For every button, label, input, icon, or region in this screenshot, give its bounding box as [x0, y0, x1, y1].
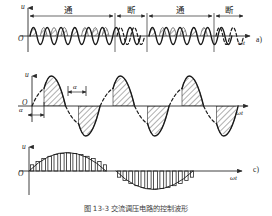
pulse-pos-6	[60, 153, 64, 171]
panel-b-hatch-negative	[79, 106, 239, 136]
panel-c: u O ωt c)	[18, 142, 259, 195]
pulse-neg-9	[166, 171, 170, 188]
wave-b-blocked-3	[100, 89, 113, 107]
pulse-pos-8	[73, 153, 77, 171]
y-axis-label-a: u	[21, 2, 25, 11]
wave-b-blocked-2	[66, 106, 79, 124]
wave-b-blocked-6	[204, 106, 217, 124]
x-axis-label-a: ωt	[238, 39, 246, 47]
origin-label-c: O	[18, 169, 24, 178]
figure-container: 通 断 通 断 u	[0, 0, 272, 216]
figure-caption: 图 13-3 交流调压电路的控制波形	[84, 204, 189, 213]
alpha-label-high: α	[73, 83, 77, 91]
wave-b-blocked-5	[169, 89, 182, 107]
y-axis-label-c: u	[22, 142, 26, 151]
span-label-on-1: 通	[64, 5, 73, 15]
span-label-off-2: 断	[225, 5, 234, 15]
y-axis-label-b: u	[25, 70, 29, 79]
pulse-neg-5	[141, 171, 145, 188]
panel-label-a: a)	[256, 35, 262, 44]
x-axis-label-b: ωt	[236, 109, 244, 117]
panel-label-c: c)	[253, 165, 259, 174]
x-axis-label-c: ωt	[230, 174, 238, 182]
pulse-pos-9	[79, 155, 83, 172]
origin-label-b: O	[22, 98, 28, 107]
alpha-label-low: α	[19, 106, 23, 114]
pulse-neg-8	[160, 171, 164, 189]
pulse-pos-7	[67, 153, 71, 171]
wave-b-blocked-1	[32, 89, 44, 107]
span-label-on-2: 通	[176, 5, 185, 15]
pulse-pos-4	[48, 156, 52, 171]
pulse-neg-6	[147, 171, 151, 189]
hatch-a-on-1	[30, 28, 109, 37]
pulse-neg-7	[154, 171, 158, 189]
wave-b-blocked-4	[135, 106, 148, 124]
span-label-off-1: 断	[127, 5, 136, 15]
panel-a: 通 断 通 断 u	[18, 2, 262, 52]
panel-a-bracket-row: 通 断 通 断	[30, 5, 243, 16]
origin-label-a: O	[18, 34, 24, 43]
pulse-neg-4	[135, 171, 139, 186]
figure-canvas: 通 断 通 断 u	[0, 0, 272, 216]
panel-b: α α u O ωt	[18, 70, 248, 136]
pulse-pos-5	[54, 155, 58, 172]
